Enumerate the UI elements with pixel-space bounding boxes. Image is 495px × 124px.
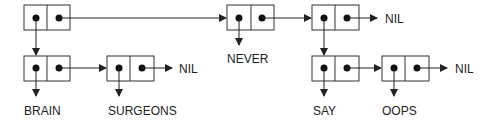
atom-label-say: SAY [313, 104, 336, 118]
nil-label: NIL [385, 12, 404, 26]
cons-cell-diagram: BRAIN SURGEONS NIL NEVER NIL SAY [0, 0, 495, 124]
nil-label: NIL [455, 62, 474, 76]
atom-label-brain: BRAIN [24, 104, 61, 118]
nil-label: NIL [179, 62, 198, 76]
atom-label-oops: OOPS [382, 104, 417, 118]
atom-label-never: NEVER [227, 52, 269, 66]
atom-label-surgeons: SURGEONS [108, 104, 177, 118]
